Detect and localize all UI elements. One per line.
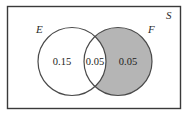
set-label-f: F <box>147 23 155 35</box>
universal-set-label: S <box>166 9 172 21</box>
venn-diagram-canvas: E F S 0.15 0.05 0.05 <box>0 0 190 115</box>
region-value-e-and-f: 0.05 <box>86 56 104 67</box>
set-label-e: E <box>35 23 43 35</box>
region-value-e-only: 0.15 <box>53 56 71 67</box>
venn-diagram-figure: E F S 0.15 0.05 0.05 <box>0 0 190 115</box>
region-value-f-only: 0.05 <box>119 56 137 67</box>
